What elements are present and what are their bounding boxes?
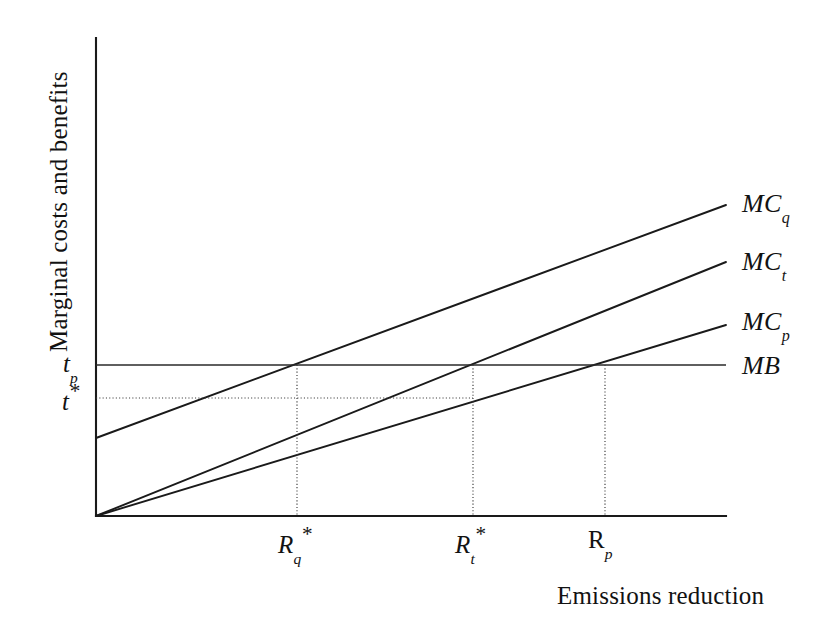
curve-label-mc-p-base: MC — [742, 307, 782, 336]
x-tick-label-r-p-sub: p — [605, 545, 613, 562]
x-tick-label-r-t-star-base: R — [455, 531, 470, 558]
curve-label-mc-q: MCq — [742, 191, 790, 221]
curve-label-mc-p-sub: p — [782, 327, 790, 344]
x-tick-label-r-t-star: Rt* — [455, 527, 485, 562]
curve-label-mc-t-sub: t — [782, 267, 787, 284]
economics-diagram-figure: Marginal costs and benefits Emissions re… — [0, 0, 827, 631]
curve-mc-t — [96, 262, 726, 516]
y-tick-label-t-p-base: t — [63, 350, 70, 377]
x-tick-label-r-p: Rp — [588, 527, 612, 557]
x-tick-label-r-q-star-base: R — [278, 531, 293, 558]
curve-label-mc-q-base: MC — [742, 189, 782, 218]
x-tick-label-r-t-star-sub: t — [470, 550, 474, 567]
curve-label-mc-q-sub: q — [782, 209, 790, 226]
curve-mc-q — [96, 205, 726, 438]
curve-label-mc-t: MCt — [742, 249, 786, 279]
curve-label-mc-p: MCp — [742, 309, 790, 339]
curve-label-mb: MB — [742, 353, 780, 379]
y-tick-label-t-p: tp — [63, 351, 78, 381]
curve-label-mb-base: MB — [742, 351, 780, 380]
y-tick-label-t-star-base: t — [62, 388, 69, 415]
x-tick-label-r-p-base: R — [588, 526, 605, 553]
x-tick-label-r-q-star-sub: q — [293, 550, 301, 567]
y-axis-title: Marginal costs and benefits — [46, 71, 71, 352]
x-tick-label-r-q-star-asterisk: * — [302, 522, 313, 546]
y-tick-label-t-star: t* — [62, 384, 80, 414]
curve-label-mc-t-base: MC — [742, 247, 782, 276]
plot-canvas — [0, 0, 827, 631]
y-tick-label-t-star-asterisk: * — [70, 379, 81, 403]
x-tick-label-r-t-star-asterisk: * — [475, 522, 486, 546]
x-tick-label-r-q-star: Rq* — [278, 527, 312, 562]
curve-mc-p — [96, 325, 726, 516]
x-axis-title: Emissions reduction — [557, 583, 764, 608]
